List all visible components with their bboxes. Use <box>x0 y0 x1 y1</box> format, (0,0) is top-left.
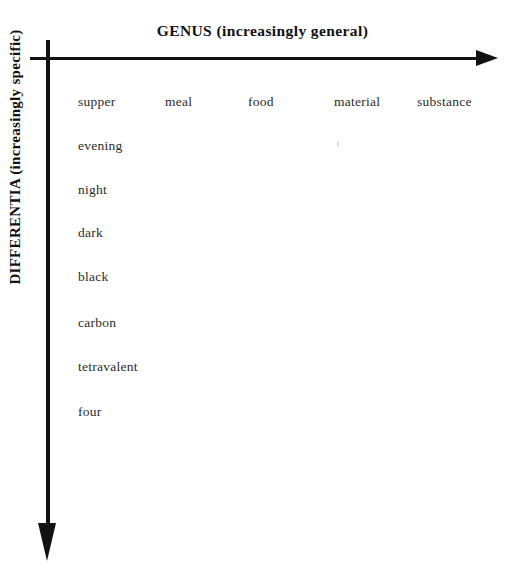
differentia-term: carbon <box>78 315 116 331</box>
differentia-term: evening <box>78 138 123 154</box>
arrow-right-icon <box>476 50 498 66</box>
vertical-axis-line <box>46 40 50 545</box>
differentia-term: dark <box>78 225 103 241</box>
genus-term: food <box>248 94 274 110</box>
differentia-term: black <box>78 269 109 285</box>
horizontal-axis-title: GENUS (increasingly general) <box>0 22 525 40</box>
differentia-term: four <box>78 404 102 420</box>
vertical-axis-title-container: DIFFERENTIA (increasingly specific) <box>0 12 30 302</box>
genus-term: meal <box>165 94 192 110</box>
genus-term: substance <box>417 94 472 110</box>
differentia-term: night <box>78 182 107 198</box>
differentia-term: tetravalent <box>78 359 138 375</box>
horizontal-axis-line <box>30 57 482 60</box>
genus-term: supper <box>78 94 116 110</box>
vertical-axis-title: DIFFERENTIA (increasingly specific) <box>7 29 24 284</box>
scan-artifact-speck <box>337 141 339 147</box>
arrow-down-icon <box>38 523 56 561</box>
genus-term: material <box>334 94 380 110</box>
genus-differentia-figure: GENUS (increasingly general) DIFFERENTIA… <box>0 0 525 585</box>
